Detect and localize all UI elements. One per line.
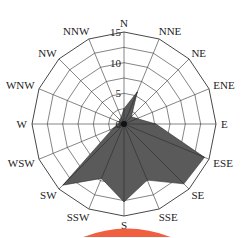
grid-spoke xyxy=(39,89,124,124)
direction-label-ssw: SSW xyxy=(67,211,90,223)
direction-label-sw: SW xyxy=(40,189,57,201)
radial-tick-10: 10 xyxy=(110,57,122,69)
direction-label-sse: SSE xyxy=(159,211,178,223)
direction-label-n: N xyxy=(120,17,128,29)
radial-tick-15: 15 xyxy=(110,26,122,38)
direction-label-ne: NE xyxy=(191,47,206,59)
accent-arc xyxy=(72,229,182,238)
wind-rose-chart: NNNENEENEEESESESSESSSWSWWSWWWNWNWNNW 051… xyxy=(0,0,244,237)
direction-label-ese: ESE xyxy=(213,157,233,169)
grid-spoke xyxy=(59,59,124,124)
direction-label-wsw: WSW xyxy=(8,157,36,169)
grid-spoke xyxy=(89,39,124,124)
direction-label-wnw: WNW xyxy=(6,79,35,91)
radial-tick-0: 0 xyxy=(116,118,122,130)
center-dot xyxy=(121,121,127,127)
direction-label-w: W xyxy=(17,118,28,130)
radial-tick-5: 5 xyxy=(116,87,122,99)
direction-label-e: E xyxy=(221,118,228,130)
direction-label-se: SE xyxy=(191,189,204,201)
direction-label-ene: ENE xyxy=(213,79,235,91)
direction-label-nne: NNE xyxy=(159,25,182,37)
grid-spoke xyxy=(124,59,189,124)
direction-label-nnw: NNW xyxy=(63,25,90,37)
direction-label-nw: NW xyxy=(38,47,57,59)
